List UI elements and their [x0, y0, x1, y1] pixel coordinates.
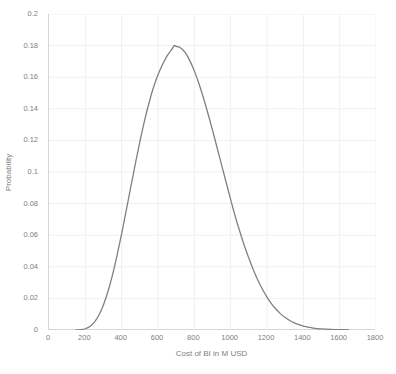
x-axis-tick-label: 1400 — [294, 334, 311, 342]
y-axis-tick-label: 0.18 — [23, 42, 38, 50]
x-axis-tick-labels: 020040060080010001200140016001800 — [48, 334, 375, 348]
y-axis-tick-label: 0.06 — [23, 231, 38, 239]
y-axis-tick-label: 0 — [34, 326, 38, 334]
x-axis-tick-label: 1600 — [330, 334, 347, 342]
y-axis-tick-label: 0.08 — [23, 200, 38, 208]
probability-distribution-chart: Probability 00.020.040.060.080.10.120.14… — [0, 0, 396, 374]
x-axis-tick-label: 0 — [46, 334, 50, 342]
y-axis-tick-label: 0.12 — [23, 137, 38, 145]
probability-curve — [49, 14, 376, 330]
x-axis-tick-label: 1000 — [221, 334, 238, 342]
x-axis-tick-label: 200 — [78, 334, 91, 342]
x-axis-tick-label: 600 — [151, 334, 164, 342]
y-axis-tick-label: 0.02 — [23, 295, 38, 303]
x-axis-tick-label: 800 — [187, 334, 200, 342]
y-axis-tick-label: 0.2 — [28, 10, 38, 18]
plot-area — [48, 14, 375, 330]
x-axis-tick-label: 1200 — [258, 334, 275, 342]
x-axis-title: Cost of BI in M USD — [48, 350, 375, 359]
y-axis-tick-label: 0.1 — [28, 168, 38, 176]
y-axis-tick-labels: 00.020.040.060.080.10.120.140.160.180.2 — [0, 14, 44, 330]
y-axis-tick-label: 0.04 — [23, 263, 38, 271]
y-axis-tick-label: 0.16 — [23, 73, 38, 81]
x-axis-tick-label: 1800 — [367, 334, 384, 342]
x-axis-tick-label: 400 — [114, 334, 127, 342]
y-axis-tick-label: 0.14 — [23, 105, 38, 113]
